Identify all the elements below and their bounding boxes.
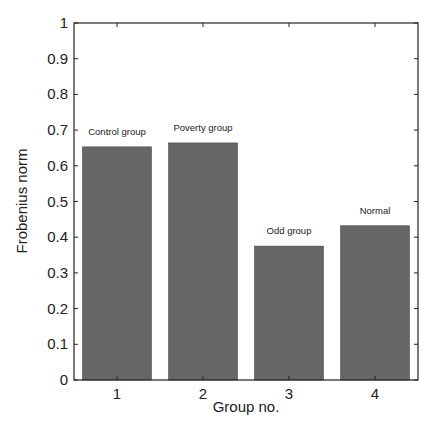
x-tick-label: 3: [285, 385, 293, 402]
x-tick-label: 2: [199, 385, 207, 402]
x-axis-ticks: 1234: [113, 23, 379, 402]
bar: [83, 147, 152, 380]
y-tick-label: 0.8: [47, 85, 68, 102]
bar: [255, 246, 324, 380]
y-tick-label: 0.2: [47, 300, 68, 317]
bar-chart: Control groupPoverty groupOdd groupNorma…: [0, 0, 435, 427]
bar-annotation: Control group: [88, 126, 146, 137]
x-axis-label: Group no.: [213, 398, 280, 415]
bar-annotation: Normal: [360, 205, 391, 216]
y-tick-label: 0: [60, 371, 68, 388]
x-tick-label: 4: [371, 385, 379, 402]
bar-annotation: Odd group: [267, 225, 312, 236]
bars: [83, 143, 410, 380]
y-axis-label: Frobenius norm: [13, 148, 30, 253]
y-tick-label: 0.4: [47, 228, 68, 245]
x-tick-label: 1: [113, 385, 121, 402]
y-tick-label: 0.7: [47, 121, 68, 138]
y-tick-label: 1: [60, 14, 68, 31]
bar: [169, 143, 238, 380]
y-tick-label: 0.5: [47, 193, 68, 210]
y-tick-label: 0.6: [47, 157, 68, 174]
bar: [341, 226, 410, 380]
y-tick-label: 0.9: [47, 50, 68, 67]
y-tick-label: 0.3: [47, 264, 68, 281]
y-tick-label: 0.1: [47, 335, 68, 352]
bar-annotation: Poverty group: [173, 122, 232, 133]
